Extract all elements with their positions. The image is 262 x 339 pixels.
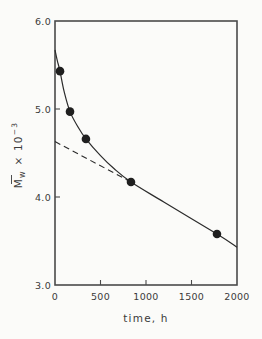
y-tick-label: 5.0: [35, 104, 51, 115]
fitted-curve: [55, 50, 237, 247]
y-tick-label: 4.0: [35, 192, 51, 203]
x-axis-ticks: 0500100015002000: [52, 280, 250, 302]
data-point-marker: [66, 107, 75, 116]
y-axis-title-text: Mw × 10−3: [10, 122, 27, 188]
y-axis-title: Mw × 10−3: [10, 122, 27, 188]
data-point-marker: [213, 230, 222, 239]
data-point-marker: [56, 67, 65, 76]
y-tick-label: 6.0: [35, 16, 51, 27]
x-tick-label: 1000: [133, 291, 158, 302]
x-tick-label: 500: [91, 291, 110, 302]
plot-border: [55, 21, 237, 285]
data-point-marker: [82, 135, 91, 144]
x-tick-label: 0: [52, 291, 58, 302]
x-axis-title: time, h: [123, 312, 168, 324]
y-tick-label: 3.0: [35, 280, 51, 291]
x-tick-label: 1500: [179, 291, 204, 302]
data-series: [55, 50, 237, 247]
x-tick-label: 2000: [224, 291, 249, 302]
chart: 3.04.05.06.0 0500100015002000 time, h Mw…: [0, 0, 262, 339]
plot-frame: [55, 21, 237, 285]
data-point-marker: [127, 178, 136, 187]
